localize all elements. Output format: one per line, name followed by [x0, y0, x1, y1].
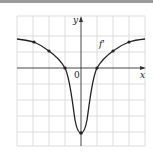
curve-points [32, 40, 130, 134]
curve-label: f' [99, 40, 105, 49]
y-axis-arrow-icon [79, 16, 83, 22]
x-axis-label: x [140, 71, 145, 80]
origin-label: 0 [74, 71, 80, 80]
y-axis-label: y [73, 16, 78, 25]
axes [17, 18, 144, 146]
